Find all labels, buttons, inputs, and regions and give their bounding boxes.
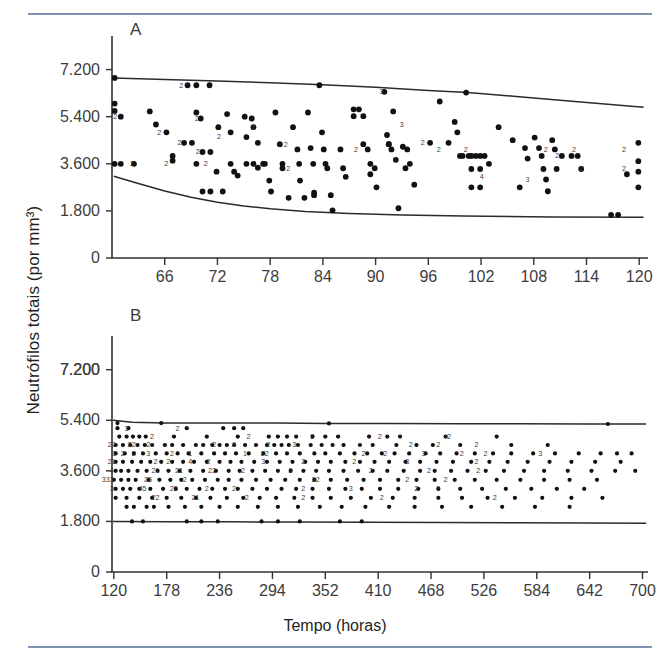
data-point [367, 434, 371, 438]
data-point [314, 469, 318, 473]
multiplicity-annotation: 2 [301, 457, 305, 466]
data-point [385, 469, 389, 473]
data-point [613, 469, 617, 473]
multiplicity-annotation: 3 [349, 484, 353, 493]
plot-area-b: 3222222222222223222322321122223223212242… [0, 300, 670, 600]
multiplicity-annotation: 2 [493, 493, 497, 502]
data-point [496, 124, 502, 130]
data-point [250, 469, 254, 473]
data-point [205, 434, 209, 438]
data-point [181, 460, 185, 464]
data-point [533, 505, 537, 509]
data-point [320, 443, 324, 447]
y-tick-label: 3.600 [0, 155, 100, 173]
data-point [265, 460, 269, 464]
data-point [255, 165, 261, 171]
multiplicity-annotation: 2 [164, 159, 168, 168]
data-point [554, 166, 560, 172]
data-point [216, 519, 220, 523]
data-point [384, 132, 390, 138]
data-point [181, 140, 187, 146]
data-point [340, 505, 344, 509]
data-point [310, 496, 314, 500]
data-point [290, 124, 296, 130]
multiplicity-annotation: 2 [183, 475, 187, 484]
data-point [294, 487, 298, 491]
data-point [473, 451, 477, 455]
data-point [532, 135, 538, 141]
data-point [367, 171, 373, 177]
data-point [504, 487, 508, 491]
data-point [502, 469, 506, 473]
data-point [482, 153, 488, 159]
data-point [491, 451, 495, 455]
data-point [298, 519, 302, 523]
data-points [112, 75, 641, 218]
data-point [287, 443, 291, 447]
data-point [141, 451, 145, 455]
multiplicity-annotation: 3 [436, 484, 440, 493]
data-point [372, 165, 378, 171]
multiplicity-annotation: 2 [232, 440, 236, 449]
data-point [394, 443, 398, 447]
x-tick-label: 72 [209, 268, 227, 286]
data-point [454, 451, 458, 455]
data-point [170, 443, 174, 447]
data-point [343, 487, 347, 491]
data-point [166, 505, 170, 509]
data-point [378, 478, 382, 482]
data-point [114, 487, 118, 491]
multiplicity-annotation: 2 [301, 493, 305, 502]
data-point [305, 110, 311, 116]
multiplicity-annotation: 3 [380, 87, 384, 96]
data-point [244, 134, 250, 140]
data-point [525, 156, 531, 162]
multiplicity-annotation: 2 [436, 440, 440, 449]
data-point [189, 140, 195, 146]
data-point [296, 505, 300, 509]
multiplicity-annotation: 3 [124, 424, 128, 433]
data-point [208, 496, 212, 500]
multiplicity-annotation: 2 [383, 449, 387, 458]
data-point [633, 469, 637, 473]
multiplicity-annotation: 2 [154, 457, 158, 466]
data-point [323, 451, 327, 455]
data-point [126, 478, 130, 482]
data-point [118, 114, 124, 120]
y-tick-label: 3.600 [0, 462, 100, 480]
data-point [121, 487, 125, 491]
data-point [228, 129, 234, 135]
data-point [239, 460, 243, 464]
multiplicity-annotation: 2 [361, 449, 365, 458]
data-point [117, 434, 121, 438]
data-point [201, 443, 205, 447]
multiplicity-annotation: 21 [151, 466, 159, 475]
multiplicity-annotation: 21 [175, 466, 183, 475]
data-point [568, 478, 572, 482]
data-point [135, 469, 139, 473]
x-tick-label: 352 [312, 582, 339, 600]
lower-limit-curve [114, 176, 644, 217]
data-point [385, 434, 389, 438]
data-point [170, 158, 176, 164]
data-point [221, 426, 225, 430]
data-point [396, 205, 402, 211]
data-point [118, 161, 124, 167]
data-point [297, 178, 303, 184]
y-tick-label: 7.200 [0, 361, 100, 379]
data-point [391, 496, 395, 500]
data-point [295, 146, 301, 152]
data-point [328, 192, 334, 198]
data-point [266, 178, 272, 184]
data-point [161, 487, 165, 491]
data-point [312, 451, 316, 455]
data-point [549, 137, 555, 143]
data-point [302, 195, 308, 201]
data-point [433, 469, 437, 473]
data-point [330, 207, 336, 213]
data-point [310, 487, 314, 491]
y-tick-label: 0 [0, 563, 100, 581]
data-point [559, 153, 565, 159]
data-point [541, 166, 547, 172]
data-point [185, 519, 189, 523]
